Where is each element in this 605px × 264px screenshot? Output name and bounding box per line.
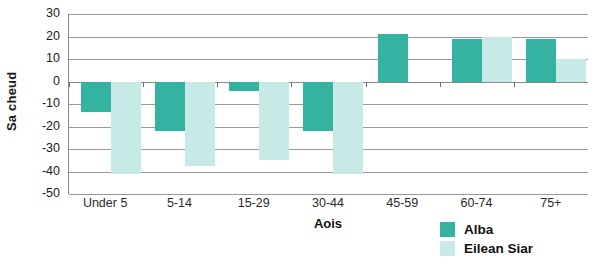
bar-alba	[452, 39, 482, 82]
legend-item: Eilean Siar	[440, 239, 533, 258]
y-axis-tick-label: 10	[18, 51, 60, 65]
bar-group	[217, 14, 291, 194]
x-axis-tick-mark	[366, 82, 367, 87]
bar-alba	[378, 34, 408, 81]
y-axis-tick-label: -50	[18, 186, 60, 200]
bar-group	[514, 14, 588, 194]
bar-eilean-siar	[259, 82, 289, 161]
x-axis-tick-label: 60-74	[439, 196, 513, 210]
x-axis-tick-label: 5-14	[142, 196, 216, 210]
x-axis-tick-mark	[143, 82, 144, 87]
x-axis-tick-mark	[217, 82, 218, 87]
plot-area	[68, 14, 588, 194]
legend-label: Eilean Siar	[464, 241, 533, 256]
legend-label: Alba	[464, 222, 493, 237]
gridline	[69, 194, 588, 195]
bar-alba	[229, 82, 259, 91]
y-axis-tick-label: -10	[18, 96, 60, 110]
bar-eilean-siar	[556, 59, 586, 82]
y-axis-tick-label: 30	[18, 6, 60, 20]
bar-group	[69, 14, 143, 194]
legend-swatch-icon	[440, 241, 455, 256]
chart-legend: AlbaEilean Siar	[440, 220, 533, 258]
x-axis-tick-label: 15-29	[217, 196, 291, 210]
x-axis-tick-mark	[514, 82, 515, 87]
x-axis-tick-label: 75+	[514, 196, 588, 210]
bar-group	[291, 14, 365, 194]
bar-groups	[69, 14, 588, 194]
x-axis-tick-labels: Under 55-1415-2930-4445-5960-7475+	[68, 196, 588, 210]
bar-alba	[526, 39, 556, 82]
legend-swatch-icon	[440, 222, 455, 237]
bar-eilean-siar	[111, 82, 141, 174]
bar-group	[143, 14, 217, 194]
legend-item: Alba	[440, 220, 533, 239]
y-axis-tick-label: 20	[18, 29, 60, 43]
x-axis-tick-mark	[69, 82, 70, 87]
y-axis-tick-label: -30	[18, 141, 60, 155]
x-axis-tick-label: 30-44	[291, 196, 365, 210]
bar-group	[440, 14, 514, 194]
x-axis-tick-mark	[291, 82, 292, 87]
bar-alba	[81, 82, 111, 112]
x-axis-tick-mark	[440, 82, 441, 87]
bar-eilean-siar	[185, 82, 215, 166]
bar-alba	[155, 82, 185, 132]
x-axis-tick-label: 45-59	[365, 196, 439, 210]
x-axis-tick-label: Under 5	[68, 196, 142, 210]
y-axis-tick-label: 0	[18, 74, 60, 88]
bar-chart: Sa cheud 3020100-10-20-30-40-50 Under 55…	[0, 0, 605, 264]
y-axis-tick-label: -20	[18, 119, 60, 133]
bar-alba	[303, 82, 333, 132]
bar-group	[366, 14, 440, 194]
bar-eilean-siar	[482, 37, 512, 82]
bar-eilean-siar	[333, 82, 363, 174]
y-axis-tick-label: -40	[18, 164, 60, 178]
